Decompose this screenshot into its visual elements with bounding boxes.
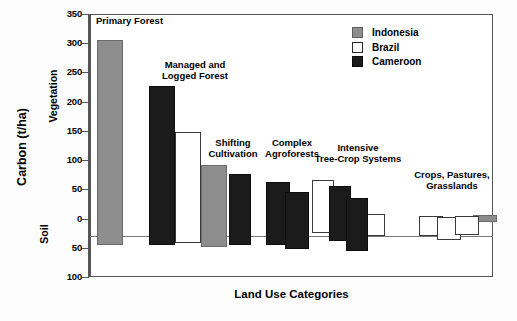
bar-cameroon <box>149 86 175 245</box>
legend-item-indonesia: Indonesia <box>352 27 467 38</box>
category-label: Intensive Tree-Crop Systems <box>309 143 407 164</box>
y-tick-label: 0 <box>54 214 82 223</box>
legend: Indonesia Brazil Cameroon <box>352 27 467 71</box>
y-tick-200 <box>82 102 89 103</box>
y-tick-label: 300 <box>54 38 82 47</box>
y-axis-tick-labels: 35030025020015010050050100 <box>50 0 82 321</box>
y-tick-150 <box>82 131 89 132</box>
legend-swatch-cameroon <box>352 56 363 67</box>
y-tick-300 <box>82 43 89 44</box>
legend-item-brazil: Brazil <box>352 42 467 53</box>
chart-figure: 35030025020015010050050100 Carbon (t/ha)… <box>0 0 517 321</box>
y-tick-label: 100 <box>54 155 82 164</box>
legend-swatch-indonesia <box>352 27 363 38</box>
y-tick-label: 50 <box>54 184 82 193</box>
legend-label-brazil: Brazil <box>372 42 399 53</box>
y-axis-upper-label: Vegetation <box>47 51 59 141</box>
legend-label-indonesia: Indonesia <box>372 27 419 38</box>
y-tick-label: 350 <box>54 9 82 18</box>
legend-item-cameroon: Cameroon <box>352 56 467 67</box>
y-tick-350 <box>82 14 89 15</box>
bar-indonesia <box>201 165 227 247</box>
legend-swatch-brazil <box>352 42 363 53</box>
y-tick-50 <box>82 189 89 190</box>
y-axis-lower-label: Soil <box>38 204 50 264</box>
y-axis-title: Carbon (t/ha) <box>15 92 29 202</box>
y-tick-label: 100 <box>54 272 82 281</box>
bar-brazil <box>175 132 201 243</box>
y-tick-0 <box>82 219 89 220</box>
y-axis-line <box>88 14 90 277</box>
category-label: Managed and Logged Forest <box>140 60 250 81</box>
bar-cameroon <box>229 174 251 245</box>
x-axis-title: Land Use Categories <box>90 288 493 300</box>
y-tick-250 <box>82 72 89 73</box>
bar-brazil <box>455 216 479 235</box>
y-tick-50 <box>82 248 89 249</box>
bar-cameroon <box>285 192 309 249</box>
category-label: Crops, Pastures, Grasslands <box>404 170 500 191</box>
bar-indonesia <box>97 40 123 246</box>
y-tick-100 <box>82 277 89 278</box>
bar-cameroon <box>346 198 368 251</box>
y-tick-100 <box>82 160 89 161</box>
y-tick-label: 50 <box>54 243 82 252</box>
legend-label-cameroon: Cameroon <box>372 56 421 67</box>
category-label: Primary Forest <box>96 16 206 27</box>
